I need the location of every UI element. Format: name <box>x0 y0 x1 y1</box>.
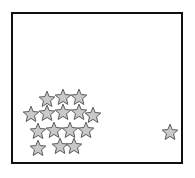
plot-border <box>11 12 183 164</box>
figure-root <box>0 0 195 178</box>
